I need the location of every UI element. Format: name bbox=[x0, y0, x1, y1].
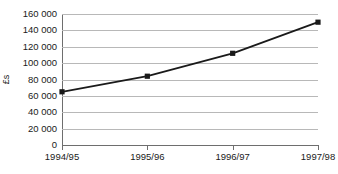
y-axis-title-text: £s bbox=[2, 74, 11, 84]
x-axis-tick bbox=[62, 145, 63, 150]
x-axis-tick bbox=[147, 145, 148, 150]
y-axis-tick-label: 120 000 bbox=[23, 42, 57, 52]
x-axis-tick-label: 1995/96 bbox=[130, 152, 164, 162]
data-series bbox=[62, 14, 318, 145]
line-chart: £s 020 00040 00060 00080 000100 000120 0… bbox=[0, 0, 338, 174]
y-axis-tick-label: 20 000 bbox=[28, 124, 57, 134]
x-axis-tick bbox=[318, 145, 319, 150]
y-axis-title: £s bbox=[0, 62, 14, 96]
data-point-marker bbox=[59, 89, 64, 94]
gridline bbox=[62, 145, 318, 146]
x-axis-tick-label: 1996/97 bbox=[215, 152, 249, 162]
data-point-marker bbox=[315, 20, 320, 25]
x-axis-tick-label: 1994/95 bbox=[45, 152, 79, 162]
y-axis-tick-label: 0 bbox=[52, 140, 57, 150]
y-axis-tick-label: 100 000 bbox=[23, 58, 57, 68]
y-axis-tick-labels: 020 00040 00060 00080 000100 000120 0001… bbox=[14, 0, 60, 174]
x-axis-tick-label: 1997/98 bbox=[301, 152, 335, 162]
x-axis-tick bbox=[233, 145, 234, 150]
data-point-marker bbox=[230, 51, 235, 56]
y-axis-tick-label: 40 000 bbox=[28, 108, 57, 118]
plot-area bbox=[62, 14, 318, 145]
y-axis-tick-label: 140 000 bbox=[23, 26, 57, 36]
data-point-marker bbox=[145, 74, 150, 79]
series-line bbox=[62, 22, 318, 92]
y-axis-tick-label: 80 000 bbox=[28, 75, 57, 85]
y-axis-tick-label: 60 000 bbox=[28, 91, 57, 101]
y-axis-tick-label: 160 000 bbox=[23, 9, 57, 19]
